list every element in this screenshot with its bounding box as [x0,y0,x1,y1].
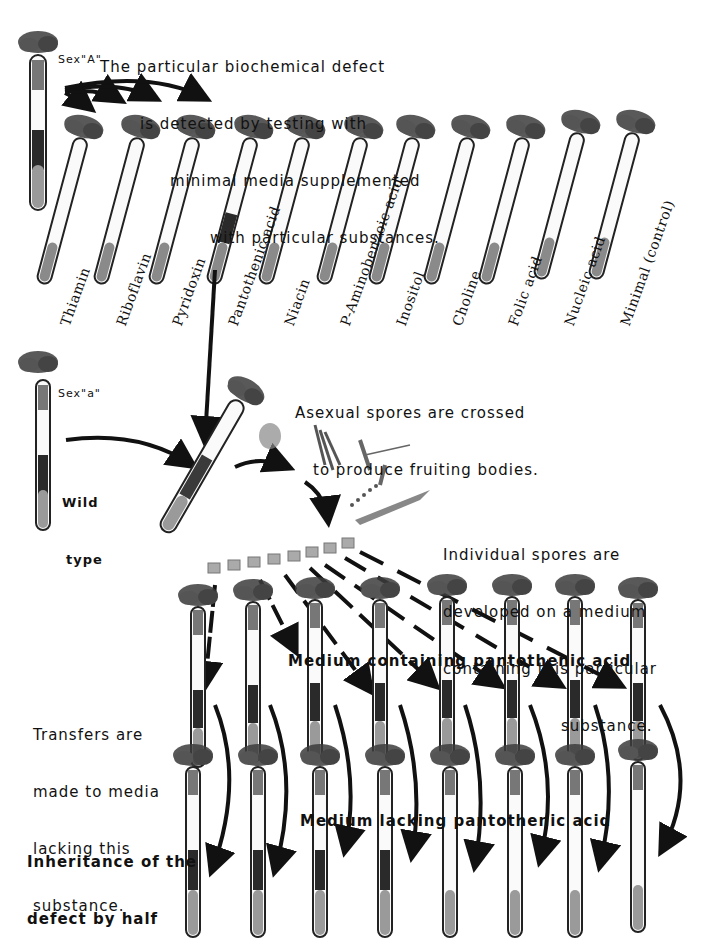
individual-spores-caption: Individual spores are developed on a med… [443,508,657,755]
inheritance-line-2: defect by half [27,910,197,929]
sex-a-tube [18,351,58,530]
individual-line-1: Individual spores are [443,546,657,565]
transfers-line-1: Transfers are [33,726,160,745]
asexual-line-2: to produce fruiting bodies. [295,461,539,480]
inheritance-caption: Inheritance of the defect by half the cu… [27,815,197,945]
intro-line-1: The particular biochemical defect [100,58,440,77]
intro-line-2: is detected by testing with [100,115,440,134]
inheritance-line-1: Inheritance of the [27,853,197,872]
individual-line-4: substance. [443,717,657,736]
transfers-line-2: made to media [33,783,160,802]
wild-type-label: Wild type [62,455,103,588]
medium-lacking-label: Medium lacking pantothenic acid [300,812,611,831]
sex-a-label: Sex"a" [58,384,101,403]
asexual-line-1: Asexual spores are crossed [295,404,539,423]
asexual-caption: Asexual spores are crossed to produce fr… [295,366,539,499]
sex-A-label: Sex"A" [58,50,102,69]
medium-containing-label: Medium containing pantothenic acid [288,652,631,671]
sex-A-tube [18,31,58,210]
individual-line-2: developed on a medium [443,603,657,622]
wild-type-line-2: type [62,550,103,569]
wild-type-line-1: Wild [62,493,103,512]
